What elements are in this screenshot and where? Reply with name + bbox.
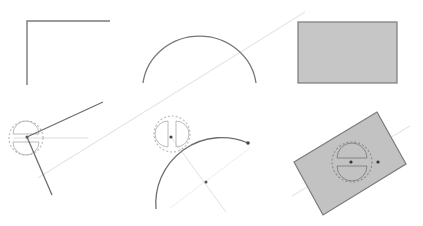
rotation-gizmo[interactable]: [154, 116, 190, 152]
pivot-dot[interactable]: [26, 136, 29, 139]
center-dot[interactable]: [376, 160, 379, 163]
rect-rotated: [294, 112, 406, 215]
corner-rotated: [9, 102, 103, 195]
pivot-dot[interactable]: [169, 135, 172, 138]
rect-original: [298, 22, 397, 83]
chord-guide-line: [170, 148, 250, 208]
arc-rotated: [154, 116, 250, 212]
center-dot[interactable]: [205, 181, 208, 184]
diagonal-guide-line: [38, 12, 305, 178]
arc-original: [143, 36, 256, 83]
corner-original: [27, 21, 110, 85]
endpoint-dot[interactable]: [246, 141, 250, 145]
pivot-dot[interactable]: [349, 160, 352, 163]
rotation-diagram: [0, 0, 423, 226]
